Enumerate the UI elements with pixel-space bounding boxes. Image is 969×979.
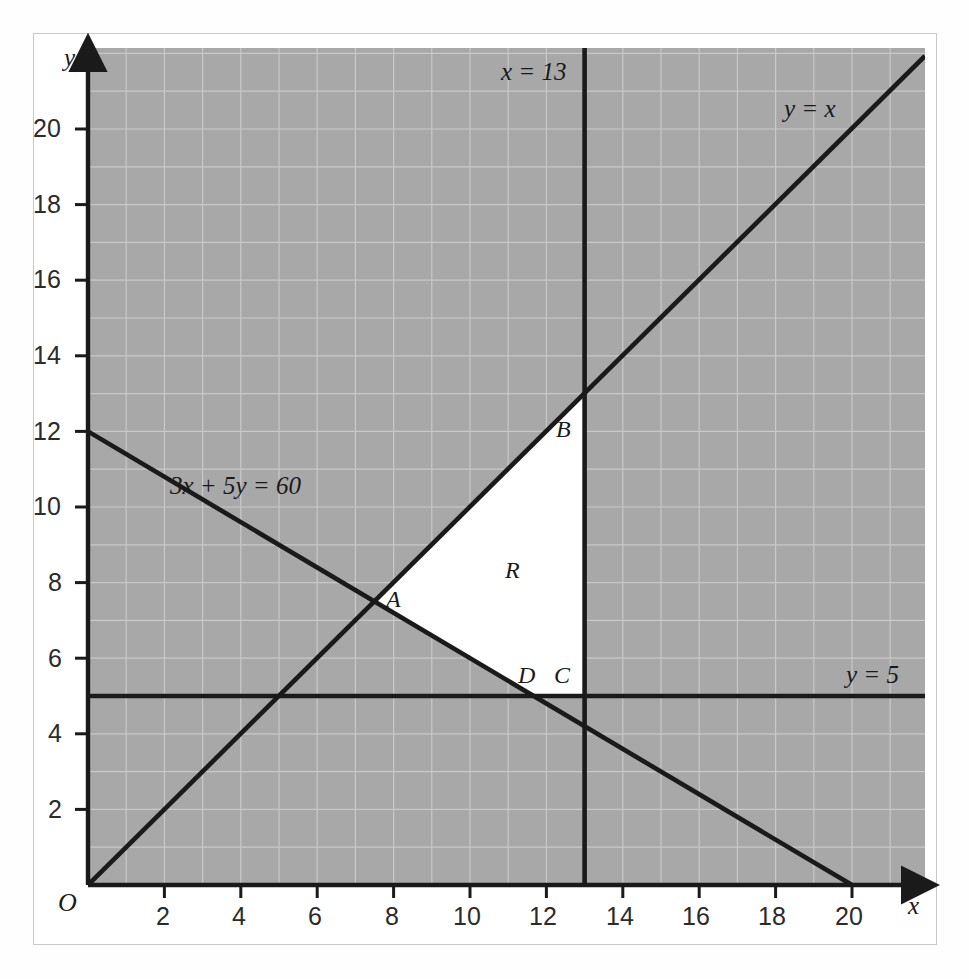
x-tick-20: 20 [835,902,863,931]
vertex-label-C: C [554,662,570,689]
y-tick-16: 16 [33,265,61,294]
x-tick-2: 2 [156,902,170,931]
x-axis-name: x [908,892,919,920]
x-tick-18: 18 [758,902,786,931]
x-tick-4: 4 [232,902,246,931]
y-tick-14: 14 [33,341,61,370]
label-x-equals-13: x = 13 [501,58,566,86]
x-tick-8: 8 [385,902,399,931]
x-tick-12: 12 [529,902,557,931]
region-label-R: R [505,557,520,584]
y-tick-18: 18 [33,190,61,219]
label-y-equals-5: y = 5 [846,661,899,689]
label-y-equals-x: y = x [784,95,836,123]
y-tick-12: 12 [33,417,61,446]
graph-figure: y x O 2 4 6 8 10 12 14 16 18 20 2 4 6 8 … [0,0,969,979]
vertex-label-A: A [386,586,401,613]
vertex-label-B: B [556,416,571,443]
y-tick-6: 6 [48,644,62,673]
coordinate-plot [0,0,969,979]
x-tick-10: 10 [453,902,481,931]
x-tick-16: 16 [682,902,710,931]
y-tick-2: 2 [48,795,62,824]
origin-label: O [58,888,77,918]
x-tick-14: 14 [606,902,634,931]
y-tick-8: 8 [48,568,62,597]
x-tick-6: 6 [308,902,322,931]
y-tick-20: 20 [33,114,61,143]
label-3x-plus-5y-equals-60: 3x + 5y = 60 [170,472,301,500]
y-axis-name: y [64,44,75,72]
y-tick-4: 4 [48,719,62,748]
y-tick-10: 10 [33,492,61,521]
vertex-label-D: D [518,662,535,689]
